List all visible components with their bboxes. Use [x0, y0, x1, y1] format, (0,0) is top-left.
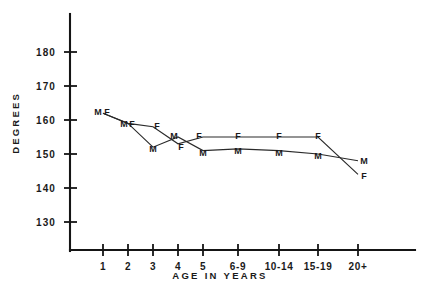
data-point-label-m: M: [314, 151, 322, 161]
y-tick-label: 180: [24, 47, 56, 58]
data-point-label-f: F: [178, 142, 184, 152]
data-point-label-m: M: [234, 146, 242, 156]
series-line-female: [103, 113, 358, 174]
data-point-label-f: F: [154, 121, 160, 131]
y-tick-label: 140: [24, 183, 56, 194]
data-point-label-m: M: [275, 148, 283, 158]
data-point-label-f: F: [315, 131, 321, 141]
data-point-label-f: F: [129, 119, 135, 129]
x-axis-title: AGE IN YEARS: [150, 270, 290, 281]
y-tick-label: 170: [24, 81, 56, 92]
y-tick-label: 130: [24, 217, 56, 228]
x-tick-label: 2: [125, 261, 131, 272]
chart-container: 180 170 160 150 140 130 1 2 3 4 5 6-9 10…: [0, 0, 436, 303]
data-point-label-m: M: [199, 148, 207, 158]
data-point-label-m: M: [120, 119, 128, 129]
x-tick-label: 1: [100, 261, 106, 272]
data-point-label-m: M: [360, 156, 368, 166]
chart-plot-area: [0, 0, 436, 303]
data-point-label-f: F: [361, 171, 367, 181]
y-axis-title: DEGREES: [10, 92, 32, 154]
data-point-label-m: M: [170, 131, 178, 141]
x-tick-label: 20+: [349, 261, 368, 272]
data-point-label-f: F: [196, 131, 202, 141]
x-tick-label: 15-19: [304, 261, 333, 272]
data-point-label-f: F: [276, 131, 282, 141]
data-point-label-m: M: [149, 144, 157, 154]
data-point-label-f: F: [104, 107, 110, 117]
data-point-label-f: F: [235, 131, 241, 141]
data-point-label-m: M: [94, 107, 102, 117]
